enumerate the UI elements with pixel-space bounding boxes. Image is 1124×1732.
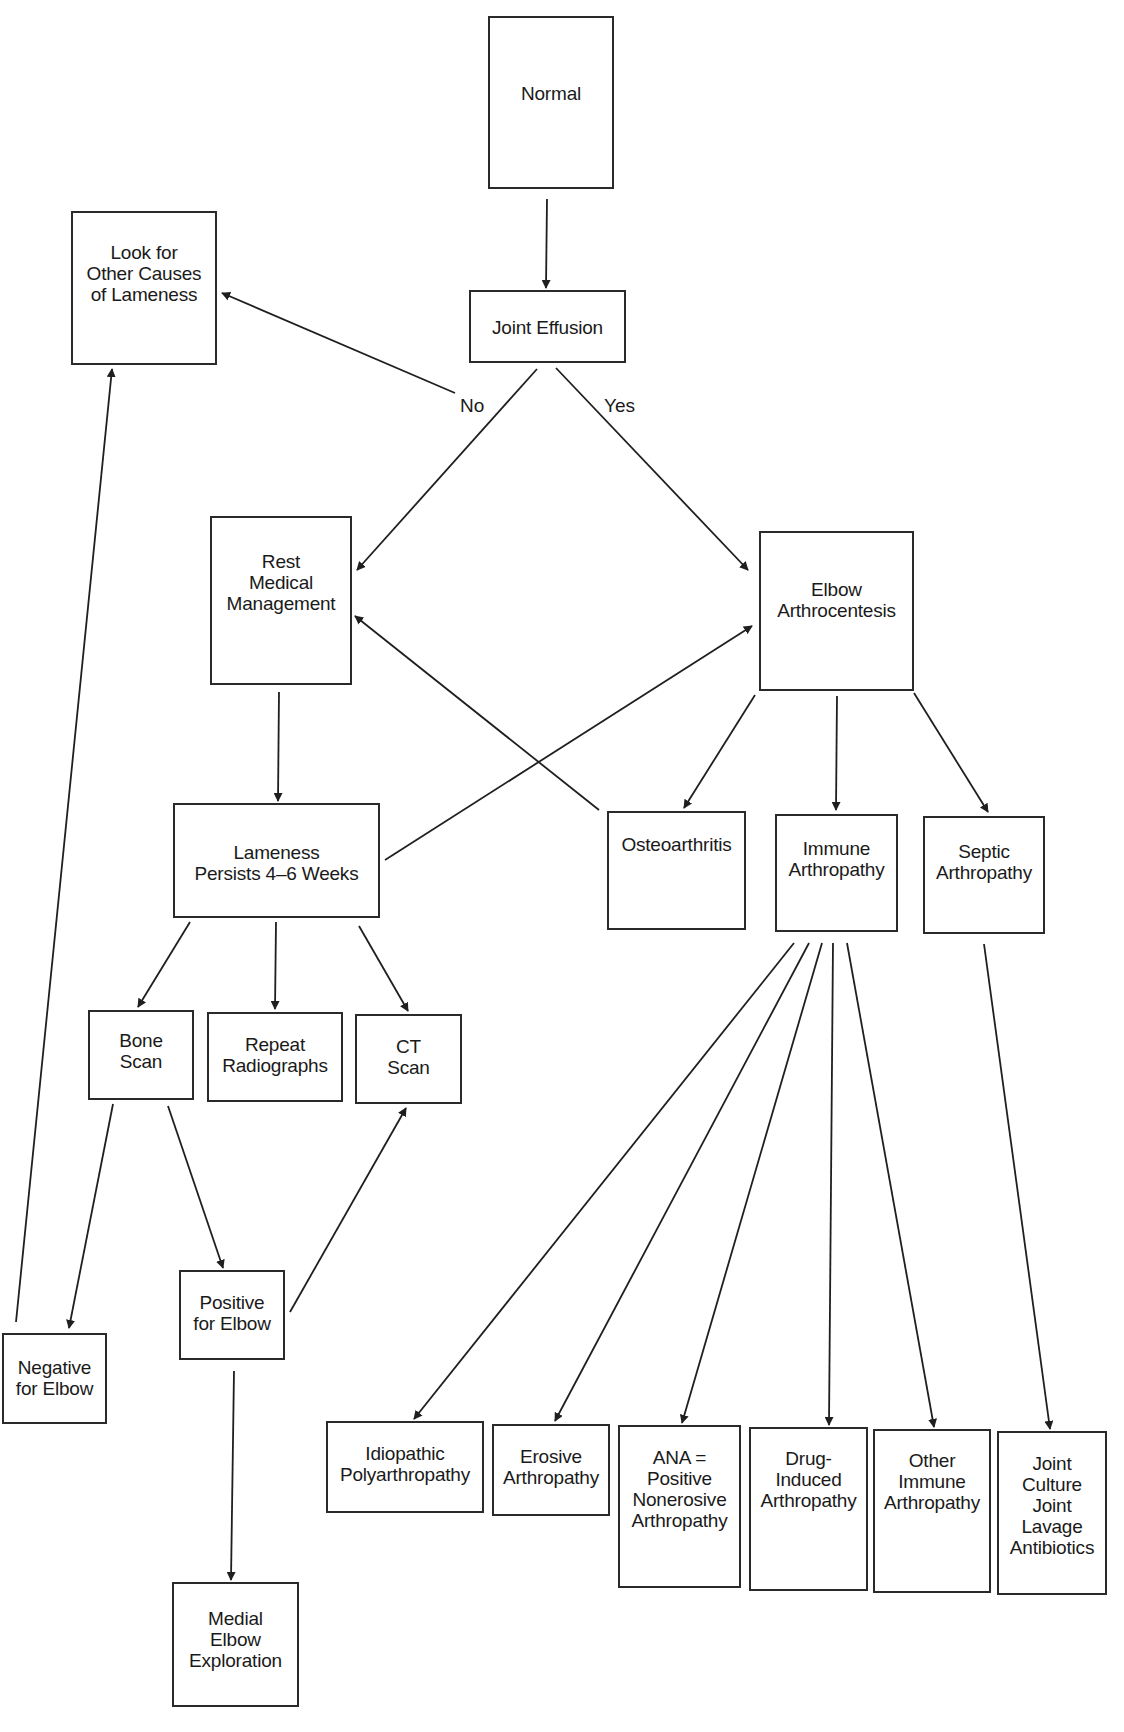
node-other-immune-arthropathy: Other Immune Arthropathy [873,1429,991,1593]
node-label: Immune Arthropathy [788,838,884,880]
edge-yes-to-elbow [556,368,748,570]
node-label: Elbow Arthrocentesis [777,579,896,621]
node-erosive-arthropathy: Erosive Arthropathy [492,1424,610,1516]
node-label: Bone Scan [119,1030,163,1072]
edge-label-yes: Yes [604,396,635,416]
edge-positive-to-medial [231,1371,234,1580]
node-immune-arthropathy: Immune Arthropathy [775,814,898,932]
node-label: ANA = Positive Nonerosive Arthropathy [631,1447,727,1531]
node-label: Joint Culture Joint Lavage Antibiotics [1010,1453,1094,1558]
node-elbow-arthrocentesis: Elbow Arthrocentesis [759,531,914,691]
edge-immune-to-drug [829,943,833,1425]
node-negative-for-elbow: Negative for Elbow [2,1333,107,1424]
node-label: Joint Effusion [492,317,603,338]
node-bone-scan: Bone Scan [88,1010,194,1100]
edge-immune-to-idiopathic [414,943,794,1419]
edge-no-to-look-other [222,293,455,393]
node-label: Septic Arthropathy [936,841,1032,883]
node-rest-medical-management: Rest Medical Management [210,516,352,685]
node-label: Erosive Arthropathy [503,1446,599,1488]
edge-rest-to-lameness [278,692,279,801]
edge-lameness-to-ct [359,926,408,1011]
node-drug-induced-arthropathy: Drug- Induced Arthropathy [749,1427,868,1591]
node-label: Positive for Elbow [193,1292,270,1334]
node-ana-positive-nonerosive: ANA = Positive Nonerosive Arthropathy [618,1425,741,1588]
node-label: CT Scan [387,1036,430,1078]
node-label: Drug- Induced Arthropathy [760,1448,856,1511]
node-label: Negative for Elbow [16,1357,93,1399]
edge-septic-to-joint-culture [984,944,1050,1429]
edge-bone-to-positive [168,1106,223,1268]
node-label: Osteoarthritis [621,834,731,855]
edge-elbow-to-septic [914,693,988,812]
node-idiopathic-polyarthropathy: Idiopathic Polyarthropathy [326,1421,484,1513]
node-septic-arthropathy: Septic Arthropathy [923,816,1045,934]
edge-positive-to-ct [290,1108,406,1312]
edge-immune-to-erosive [555,943,809,1421]
edge-lameness-to-repeat-rad [275,922,276,1009]
edge-lameness-to-bone-scan [138,922,190,1007]
flowchart: No Yes Normal Look for Other Causes of L… [0,0,1124,1732]
node-label: Repeat Radiographs [222,1034,328,1076]
edge-normal-to-joint-effusion [546,199,547,288]
edge-osteo-to-rest [355,616,599,810]
node-joint-culture-lavage-antibiotics: Joint Culture Joint Lavage Antibiotics [997,1431,1107,1595]
node-label: Idiopathic Polyarthropathy [340,1443,470,1485]
node-repeat-radiographs: Repeat Radiographs [207,1012,343,1102]
edge-elbow-to-immune [836,696,837,810]
edge-elbow-to-osteo [684,695,755,808]
edge-immune-to-other [847,943,934,1427]
node-label: Other Immune Arthropathy [884,1450,980,1513]
edge-no-to-rest [357,369,537,570]
node-label: Rest Medical Management [227,551,336,614]
node-osteoarthritis: Osteoarthritis [607,811,746,930]
node-ct-scan: CT Scan [355,1014,462,1104]
node-look-for-other-causes: Look for Other Causes of Lameness [71,211,217,365]
node-joint-effusion: Joint Effusion [469,290,626,363]
edge-bone-to-negative [69,1104,113,1328]
node-normal: Normal [488,16,614,189]
node-label: Look for Other Causes of Lameness [87,242,202,305]
node-label: Medial Elbow Exploration [189,1608,282,1671]
node-lameness-persists: Lameness Persists 4–6 Weeks [173,803,380,918]
node-positive-for-elbow: Positive for Elbow [179,1270,285,1360]
node-medial-elbow-exploration: Medial Elbow Exploration [172,1582,299,1707]
edge-immune-to-ana [682,943,822,1423]
node-label: Normal [521,83,581,104]
edge-label-no: No [460,396,484,416]
node-label: Lameness Persists 4–6 Weeks [195,842,359,884]
